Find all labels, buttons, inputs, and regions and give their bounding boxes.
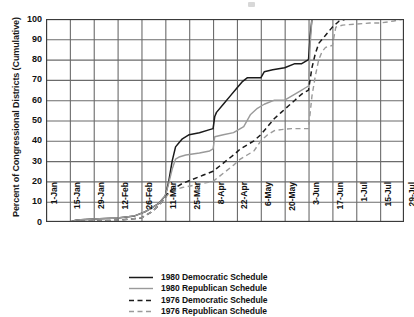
- x-tick-label: 15-Jan: [73, 182, 82, 228]
- legend-line-swatch: [128, 295, 154, 305]
- legend-item: 1976 Republican Schedule: [128, 306, 328, 317]
- x-axis-tick-labels: 1-Jan15-Jan29-Jan12-Feb26-Feb11-Mar25-Ma…: [0, 0, 414, 317]
- x-tick-label: 17-Jun: [336, 182, 345, 228]
- legend-item: 1976 Democratic Schedule: [128, 294, 328, 306]
- chart-legend: 1980 Democratic Schedule1980 Republican …: [128, 271, 328, 317]
- legend-label: 1976 Democratic Schedule: [161, 295, 268, 305]
- x-tick-label: 25-Mar: [193, 182, 202, 228]
- x-tick-label: 20-May: [288, 182, 297, 228]
- x-tick-label: 29-Jan: [97, 182, 106, 228]
- x-tick-label: 29-Jul: [408, 182, 414, 228]
- x-tick-label: 1-Jul: [360, 182, 369, 228]
- legend-label: 1980 Republican Schedule: [161, 283, 267, 293]
- x-tick-label: 3-Jun: [312, 182, 321, 228]
- x-tick-label: 12-Feb: [121, 182, 130, 228]
- x-tick-label: 11-Mar: [169, 182, 178, 228]
- x-tick-label: 15-Jul: [384, 182, 393, 228]
- x-tick-label: 22-Apr: [240, 182, 249, 228]
- x-tick-label: 6-May: [264, 182, 273, 228]
- chart-figure: Percent of Congressional Districts (Cumu…: [0, 0, 414, 317]
- legend-line-swatch: [128, 283, 154, 293]
- legend-line-swatch: [128, 272, 154, 282]
- x-tick-label: 1-Jan: [50, 182, 59, 228]
- x-tick-label: 26-Feb: [145, 182, 154, 228]
- legend-line-swatch: [128, 306, 154, 316]
- legend-label: 1976 Republican Schedule: [161, 306, 267, 316]
- legend-label: 1980 Democratic Schedule: [161, 272, 268, 282]
- legend-item: 1980 Democratic Schedule: [128, 271, 328, 283]
- legend-item: 1980 Republican Schedule: [128, 283, 328, 295]
- x-tick-label: 8-Apr: [217, 182, 226, 228]
